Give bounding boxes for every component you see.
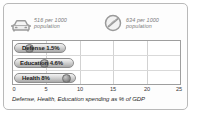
bar-chart-plot-area: Defense 1.5% Education 4.6% Health 8%	[12, 40, 181, 85]
x-tick-20: 20	[144, 86, 150, 92]
stat-vehicles: 516 per 1000 population	[8, 11, 100, 35]
stats-row: 516 per 1000 population 634 per 1000 pop…	[8, 8, 185, 38]
x-tick-25: 25	[176, 86, 182, 92]
stat-phones: 634 per 1000 population	[100, 11, 185, 35]
car-icon	[8, 11, 34, 35]
bar-row-defense[interactable]: Defense 1.5%	[13, 41, 180, 56]
bar-label-defense: Defense 1.5%	[22, 45, 60, 51]
bar-cap-health	[62, 74, 71, 83]
stat-phones-text: 634 per 1000 population	[126, 17, 159, 30]
x-tick-5: 5	[44, 86, 47, 92]
telephone-icon	[100, 11, 126, 35]
x-tick-10: 10	[77, 86, 83, 92]
x-tick-0: 0	[12, 86, 15, 92]
bar-label-education: Education 4.6%	[20, 60, 63, 66]
stat-vehicles-text: 516 per 1000 population	[34, 17, 67, 30]
chart-caption: Defense, Health, Education spending as %…	[12, 96, 187, 102]
bar-label-health: Health 8%	[22, 75, 50, 81]
infographic-card: 516 per 1000 population 634 per 1000 pop…	[3, 3, 188, 110]
bar-row-education[interactable]: Education 4.6%	[13, 56, 180, 71]
x-tick-15: 15	[110, 86, 116, 92]
x-axis: 0 5 10 15 20 25	[12, 86, 181, 95]
bar-row-health[interactable]: Health 8%	[13, 71, 180, 86]
